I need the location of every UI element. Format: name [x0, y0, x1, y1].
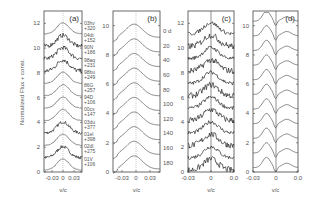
- panel-b: 0246810-0.0300.03v/c(b)0 d20406080100120…: [102, 11, 173, 193]
- spectrum-curve: [253, 157, 298, 171]
- spectrum-curve: [253, 26, 298, 40]
- epoch-label: 100: [163, 101, 174, 107]
- x-tick-label: 0.03: [144, 175, 156, 181]
- x-tick-label: 0: [61, 175, 65, 181]
- epoch-label: 80: [163, 87, 170, 93]
- y-tick-label: 8: [246, 52, 250, 58]
- y-tick-label: 10: [33, 45, 40, 51]
- y-tick-label: 10: [102, 23, 109, 29]
- y-tick-label: 4: [37, 119, 41, 125]
- spectrum-curve: [44, 85, 82, 97]
- spectrum-curve: [44, 109, 82, 121]
- y-tick-label: 0: [37, 169, 41, 175]
- spectrum-curve: [44, 23, 82, 34]
- epoch-label: 40: [163, 57, 170, 63]
- epoch-label: 140: [163, 130, 174, 136]
- sn-phase-label: +275: [84, 148, 95, 154]
- y-tick-label: 10: [177, 45, 184, 51]
- x-tick-label: 0.03: [68, 175, 80, 181]
- x-axis-label: v/c: [133, 187, 141, 193]
- x-tick-label: -0.03: [45, 175, 59, 181]
- sn-phase-label: +320: [84, 25, 95, 31]
- spectrum-curve: [253, 40, 298, 54]
- x-tick-label: 0.0: [230, 175, 239, 181]
- spectrum-curve: [113, 156, 160, 174]
- panel-a: 024681012-0.0300.03v/c(a)01V+10602dl+275…: [33, 11, 95, 193]
- y-tick-label: 4: [106, 110, 110, 116]
- y-tick-label: 4: [181, 119, 185, 125]
- sn-phase-label: +106: [84, 99, 95, 105]
- y-tick-label: 6: [246, 81, 250, 87]
- sn-phase-label: +186: [84, 49, 95, 55]
- y-tick-label: 6: [181, 95, 185, 101]
- y-tick-label: 10: [242, 23, 249, 29]
- spectrum-curve: [253, 114, 298, 128]
- y-tick-label: 2: [181, 144, 185, 150]
- panel-label: (b): [147, 14, 157, 23]
- sn-phase-label: +398: [84, 136, 95, 142]
- x-tick-label: 0.0: [294, 175, 303, 181]
- spectrum-curve: [44, 97, 82, 109]
- figure: Normalized Flux + const. 024681012-0.030…: [0, 0, 314, 204]
- panel-c: 024681012-0.0300.0v/c(c): [177, 11, 239, 193]
- panel-d: 0246810-0.0300.0v/c(d): [242, 11, 303, 193]
- y-tick-label: 12: [33, 20, 40, 26]
- x-tick-label: -0.03: [246, 175, 260, 181]
- y-tick-label: 8: [37, 70, 41, 76]
- sn-phase-label: +377: [84, 124, 95, 130]
- spectrum-curve: [253, 84, 298, 98]
- y-tick-label: 12: [177, 20, 184, 26]
- y-tick-label: 8: [106, 52, 110, 58]
- sn-phase-label: +152: [84, 37, 95, 43]
- y-axis-label: Normalized Flux + const.: [19, 59, 25, 126]
- panel-label: (a): [69, 14, 79, 23]
- sn-phase-label: +231: [84, 62, 95, 68]
- y-tick-label: 4: [246, 110, 250, 116]
- epoch-label: 0 d: [163, 28, 171, 34]
- panel-label: (d): [285, 14, 295, 23]
- y-tick-label: 2: [106, 140, 110, 146]
- x-tick-label: -0.03: [181, 175, 195, 181]
- x-tick-label: -0.03: [115, 175, 129, 181]
- plot-frame: [113, 11, 160, 172]
- epoch-label: 180: [163, 160, 174, 166]
- y-tick-label: 6: [37, 95, 41, 101]
- x-axis-label: v/c: [59, 187, 67, 193]
- spectrum-curve: [253, 128, 298, 143]
- spectrum-curve: [253, 99, 298, 114]
- x-tick-label: 0: [134, 175, 138, 181]
- spectrum-curve: [253, 55, 298, 70]
- y-tick-label: 0: [106, 169, 110, 175]
- spectrum-curve: [44, 159, 82, 171]
- y-tick-label: 6: [106, 81, 110, 87]
- y-tick-label: 2: [246, 140, 250, 146]
- epoch-label: 160: [163, 145, 174, 151]
- spectrum-curve: [253, 143, 298, 158]
- y-tick-label: 2: [37, 144, 41, 150]
- sn-phase-label: +257: [84, 87, 95, 93]
- x-axis-label: v/c: [272, 187, 280, 193]
- epoch-label: 20: [163, 43, 170, 49]
- spectrum-curve: [253, 70, 298, 85]
- panel-label: (c): [222, 14, 232, 23]
- x-axis-label: v/c: [207, 187, 215, 193]
- sn-phase-label: +147: [84, 111, 95, 117]
- sn-phase-label: +249: [84, 74, 95, 80]
- sn-phase-label: +106: [84, 161, 95, 167]
- x-tick-label: 0: [274, 175, 278, 181]
- x-tick-label: 0: [209, 175, 213, 181]
- y-tick-label: 8: [181, 70, 185, 76]
- epoch-label: 120: [163, 116, 174, 122]
- epoch-label: 60: [163, 72, 170, 78]
